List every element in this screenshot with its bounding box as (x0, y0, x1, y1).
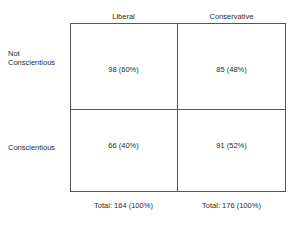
row-header-not-conscientious-line-1: Not (8, 49, 68, 58)
column-header-conservative: Conservative (177, 12, 286, 21)
row-header-conscientious-line-1: Conscientious (8, 143, 68, 152)
cell-conscientious-liberal: 66 (40%) (70, 141, 177, 150)
row-header-conscientious: Conscientious (8, 143, 68, 152)
cell-not-conscientious-conservative: 85 (48%) (177, 65, 286, 74)
horizontal-divider (71, 109, 285, 110)
row-header-not-conscientious: Not Conscientious (8, 49, 68, 67)
contingency-table-figure: Liberal Conservative Not Conscientious C… (0, 0, 298, 228)
column-total-conservative: Total: 176 (100%) (177, 201, 286, 210)
column-total-liberal: Total: 164 (100%) (70, 201, 177, 210)
row-header-not-conscientious-line-2: Conscientious (8, 58, 68, 67)
column-header-liberal: Liberal (70, 12, 177, 21)
vertical-divider (177, 24, 178, 191)
cell-conscientious-conservative: 91 (52%) (177, 141, 286, 150)
table-grid (70, 23, 286, 192)
cell-not-conscientious-liberal: 98 (60%) (70, 65, 177, 74)
